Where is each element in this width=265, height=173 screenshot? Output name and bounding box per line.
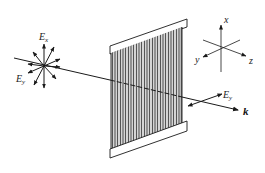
output-Ey-label: Ey: [222, 89, 233, 102]
unpolarized-field-starburst: [28, 44, 60, 88]
y-axis: [203, 40, 240, 57]
input-Ey-label: Ey: [15, 73, 26, 86]
k-label: k: [243, 105, 249, 117]
incoming-ray: [14, 58, 110, 80]
z-axis-label: z: [248, 55, 253, 66]
coordinate-axes: [203, 25, 246, 72]
polarizer-diagram: Ex Ey: [0, 0, 265, 173]
input-Ex-label: Ex: [38, 31, 49, 44]
output-Ey-arrow: [205, 94, 222, 100]
output-Ey-arrow-back: [188, 100, 205, 106]
x-axis-label: x: [223, 14, 229, 25]
y-axis-label: y: [194, 54, 200, 65]
